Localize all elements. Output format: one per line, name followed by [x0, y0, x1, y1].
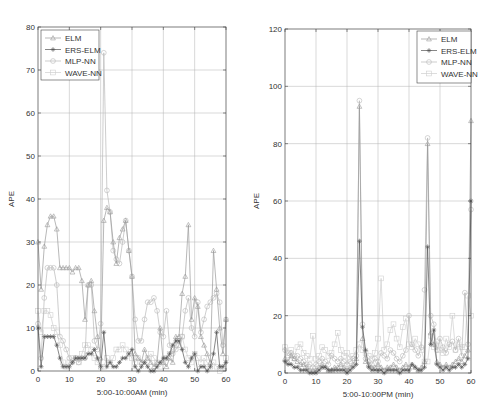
x-tick-label: 10 [312, 377, 321, 386]
chart-panel-pm: 01020304050600204060801001205:00-10:00PM… [252, 25, 478, 399]
x-tick-label: 30 [374, 377, 383, 386]
y-tick-label: 20 [26, 281, 35, 290]
x-tick-label: 0 [283, 377, 288, 386]
y-tick-label: 80 [273, 140, 282, 149]
x-tick-label: 30 [128, 375, 137, 384]
x-tick-label: 60 [467, 377, 476, 386]
x-tick-label: 60 [222, 375, 231, 384]
y-axis-label: APE [252, 193, 261, 209]
legend-label: WAVE-NN [65, 69, 102, 78]
y-tick-label: 0 [278, 369, 283, 378]
legend-label: MLP-NN [65, 57, 96, 66]
legend-label: MLP-NN [441, 58, 472, 67]
data-point [211, 351, 216, 356]
y-tick-label: 60 [26, 109, 35, 118]
y-tick-label: 20 [273, 312, 282, 321]
y-axis-label: APE [7, 191, 16, 207]
legend-label: ELM [65, 34, 82, 43]
data-point [214, 330, 219, 335]
y-tick-label: 80 [26, 23, 35, 32]
x-tick-label: 40 [159, 375, 168, 384]
legend: ELMERS-ELMMLP-NNWAVE-NN [41, 30, 102, 80]
x-tick-label: 50 [190, 375, 199, 384]
legend: ELMERS-ELMMLP-NNWAVE-NN [417, 31, 478, 83]
data-point [431, 328, 436, 333]
y-tick-label: 40 [26, 195, 35, 204]
legend-label: ELM [441, 35, 458, 44]
x-tick-label: 50 [436, 377, 445, 386]
y-tick-label: 30 [26, 238, 35, 247]
chart-panel-am: 0102030405060010203040506070805:00-10:00… [7, 23, 231, 397]
data-point [39, 364, 44, 369]
x-tick-label: 40 [405, 377, 414, 386]
legend-label: ERS-ELM [65, 46, 101, 55]
x-tick-label: 20 [96, 375, 105, 384]
y-tick-label: 60 [273, 197, 282, 206]
y-tick-label: 0 [31, 367, 36, 376]
legend-label: ERS-ELM [441, 47, 477, 56]
y-tick-label: 100 [269, 82, 283, 91]
y-tick-label: 10 [26, 324, 35, 333]
x-axis-label: 5:00-10:00PM (min) [343, 390, 414, 399]
y-tick-label: 120 [269, 25, 283, 34]
x-axis-label: 5:00-10:00AM (min) [97, 388, 168, 397]
data-point [101, 330, 106, 335]
y-tick-label: 40 [273, 254, 282, 263]
y-tick-label: 70 [26, 66, 35, 75]
y-tick-label: 50 [26, 152, 35, 161]
legend-label: WAVE-NN [441, 70, 478, 79]
data-point [466, 356, 471, 361]
data-point [117, 360, 122, 365]
figure: 0102030405060010203040506070805:00-10:00… [0, 0, 495, 417]
data-point [180, 347, 185, 352]
data-point [360, 325, 365, 330]
x-tick-label: 20 [343, 377, 352, 386]
x-tick-label: 10 [65, 375, 74, 384]
x-tick-label: 0 [36, 375, 41, 384]
data-point [54, 343, 59, 348]
